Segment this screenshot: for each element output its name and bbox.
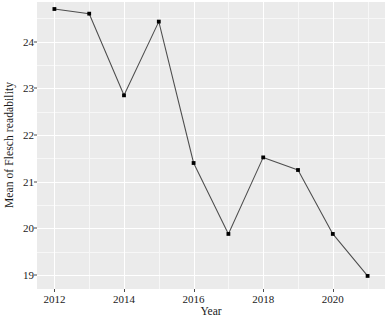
clipped-caption-strip bbox=[0, 320, 391, 325]
data-point-marker bbox=[192, 161, 196, 165]
data-point-marker bbox=[157, 20, 161, 24]
x-tick-label: 2014 bbox=[113, 293, 135, 305]
x-tick-mark bbox=[54, 289, 55, 292]
y-tick-label: 22 bbox=[23, 130, 34, 141]
data-point-marker bbox=[366, 274, 370, 278]
data-point-marker bbox=[122, 93, 126, 97]
y-axis-title-label: Mean of Flesch readability bbox=[3, 82, 15, 208]
x-tick-mark bbox=[124, 289, 125, 292]
x-tick-mark bbox=[263, 289, 264, 292]
x-tick-label: 2018 bbox=[252, 293, 274, 305]
x-tick-mark bbox=[333, 289, 334, 292]
x-tick-mark bbox=[194, 289, 195, 292]
data-point-marker bbox=[227, 232, 231, 236]
data-series-line bbox=[37, 2, 385, 289]
x-tick-label: 2020 bbox=[322, 293, 344, 305]
y-tick-label: 23 bbox=[23, 83, 34, 94]
data-point-marker bbox=[87, 12, 91, 16]
y-tick-label: 24 bbox=[23, 36, 34, 47]
y-tick-label: 21 bbox=[23, 176, 34, 187]
series-markers bbox=[53, 7, 370, 278]
x-tick-label: 2016 bbox=[183, 293, 205, 305]
x-axis-title: Year bbox=[37, 305, 385, 317]
x-axis-tick-marks bbox=[37, 289, 385, 292]
data-point-marker bbox=[53, 7, 57, 11]
y-tick-label: 19 bbox=[23, 270, 34, 281]
series-polyline bbox=[54, 9, 367, 276]
data-point-marker bbox=[261, 156, 265, 160]
plot-panel bbox=[37, 2, 385, 289]
x-tick-label: 2012 bbox=[43, 293, 65, 305]
flesch-readability-line-chart: Mean of Flesch readability 192021222324 … bbox=[0, 0, 391, 325]
y-axis-tick-labels: 192021222324 bbox=[16, 0, 34, 290]
data-point-marker bbox=[296, 168, 300, 172]
data-point-marker bbox=[331, 232, 335, 236]
y-tick-label: 20 bbox=[23, 223, 34, 234]
